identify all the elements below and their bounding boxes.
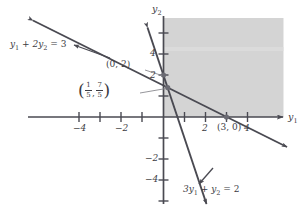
x-tick-label--4: −4: [73, 124, 86, 133]
x-tick-label--2: −2: [115, 124, 128, 133]
callout-arrow-line1: [74, 45, 110, 58]
point-label-one-fifth-seven-fifths: ( 1 5 , 7 5 ): [78, 82, 110, 99]
point-label-3-0: (3, 0): [217, 123, 241, 132]
shaded-region-highlight-band: [164, 47, 284, 51]
fraction-one-fifth: 1 5: [85, 82, 91, 99]
y-axis-name-label: y2: [152, 4, 162, 16]
x-tick-label-4: 4: [244, 124, 250, 133]
vertex-dot-one-fifth-seven-fifths: [165, 85, 170, 90]
x-axis-name-label: y1: [288, 112, 298, 124]
fraction-open-paren: (: [78, 82, 85, 99]
fraction-comma: ,: [92, 89, 95, 99]
leader-line-fraction-point: [140, 89, 166, 94]
shaded-feasible-region: [164, 18, 284, 117]
point-label-0-2: (0, 2): [106, 60, 130, 69]
equation-label-line2: 3y1 + y2 = 2: [183, 185, 239, 196]
math-graph-figure: y1 y2 −4 −2 2 4 4 2 −2 −4 y1 + 2y2 = 3 3…: [0, 0, 307, 212]
vertex-dot-3-0: [224, 114, 229, 119]
x-tick-label-2: 2: [202, 124, 208, 133]
y-tick-label-2: 2: [150, 71, 156, 80]
fraction-seven-fifths: 7 5: [96, 82, 102, 99]
y-tick-label--2: −2: [145, 154, 158, 163]
equation-label-line1: y1 + 2y2 = 3: [10, 40, 66, 51]
callout-arrow-line2: [199, 168, 213, 184]
fraction-close-paren: ): [103, 82, 110, 99]
y-tick-label-4: 4: [150, 49, 156, 58]
y-tick-label--4: −4: [145, 175, 158, 184]
